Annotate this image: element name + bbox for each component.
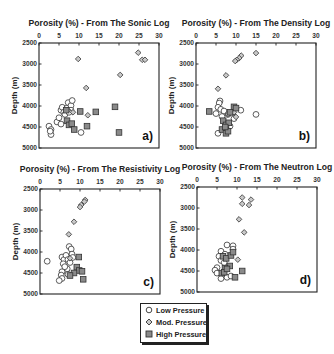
mod-pressure-point: [248, 197, 254, 203]
high-pressure-point: [79, 269, 85, 275]
data-points: [44, 197, 88, 283]
y-tick-label: 3000: [179, 60, 194, 67]
low-pressure-point: [44, 258, 50, 264]
mod-pressure-point: [241, 230, 247, 236]
mod-pressure-point: [71, 219, 77, 225]
legend: Low Pressure Mod. Pressure High Pressure: [140, 303, 207, 343]
mod-pressure-point: [236, 217, 242, 223]
x-tick-label: 20: [273, 176, 281, 183]
y-tick-label: 2500: [180, 183, 195, 190]
high-pressure-point: [232, 275, 238, 281]
y-axis-label: Depth (m): [10, 77, 19, 115]
panel-d-plot: Porosity (%) - From The Neutron LogDepth…: [158, 144, 334, 304]
y-tick-label: 4500: [179, 123, 194, 130]
high-pressure-point: [69, 121, 75, 127]
panel-label: c): [143, 275, 154, 289]
high-pressure-point: [239, 268, 245, 274]
panel-d-neutron: Porosity (%) - From The Neutron LogDepth…: [158, 144, 334, 308]
panel-label: b): [299, 129, 310, 143]
square-marker-icon: [145, 330, 153, 338]
x-tick-label: 15: [252, 32, 260, 39]
high-pressure-point: [76, 254, 82, 260]
x-tick-label: 5: [57, 32, 61, 39]
high-pressure-point: [112, 104, 118, 110]
high-pressure-point: [71, 127, 77, 133]
y-tick-label: 4000: [180, 246, 195, 253]
y-axis-label: Depth (m): [168, 221, 177, 259]
low-pressure-point: [62, 264, 68, 270]
panel-a-sonic: Porosity (%) - From The Sonic LogDepth (…: [0, 0, 167, 164]
y-tick-label: 3500: [179, 81, 194, 88]
y-tick-label: 3000: [180, 204, 195, 211]
x-tick-label: 15: [253, 176, 261, 183]
x-tick-label: 0: [37, 32, 41, 39]
x-tick-label: 5: [215, 176, 219, 183]
legend-item-high: High Pressure: [141, 328, 206, 340]
high-pressure-point: [222, 124, 228, 130]
x-tick-label: 5: [214, 32, 218, 39]
x-tick-label: 20: [116, 178, 124, 185]
high-pressure-point: [227, 110, 233, 116]
data-points: [46, 50, 148, 138]
low-pressure-point: [218, 276, 224, 282]
x-tick-label: 10: [75, 32, 83, 39]
low-pressure-point: [56, 278, 62, 284]
x-tick-label: 30: [312, 32, 320, 39]
low-pressure-point: [56, 115, 62, 121]
x-tick-label: 5: [58, 178, 62, 185]
mod-pressure-point: [117, 72, 123, 78]
x-tick-label: 20: [272, 32, 280, 39]
chart-title: Porosity (%) - From The Neutron Log: [182, 162, 332, 172]
y-tick-label: 5000: [23, 290, 38, 297]
y-tick-label: 3500: [23, 227, 38, 234]
legend-label-mod: Mod. Pressure: [156, 318, 207, 327]
mod-pressure-point: [239, 201, 245, 207]
low-pressure-point: [47, 128, 53, 134]
high-pressure-point: [206, 109, 212, 115]
mod-pressure-point: [223, 73, 229, 79]
high-pressure-point: [93, 109, 99, 115]
x-tick-label: 0: [195, 176, 199, 183]
mod-pressure-point: [85, 112, 91, 118]
high-pressure-point: [80, 277, 86, 283]
x-tick-label: 10: [233, 176, 241, 183]
high-pressure-point: [233, 105, 239, 111]
legend-label-high: High Pressure: [156, 330, 206, 339]
mod-pressure-point: [135, 50, 141, 56]
x-tick-label: 0: [194, 32, 198, 39]
high-pressure-point: [230, 249, 236, 255]
panel-c-resistivity: Porosity (%) - From The Resistivity LogD…: [1, 146, 168, 310]
y-axis-label: Depth (m): [11, 223, 20, 261]
data-points: [206, 50, 259, 136]
mod-pressure-point: [75, 56, 81, 62]
mod-pressure-point: [215, 86, 221, 92]
chart-title: Porosity (%) - From The Resistivity Log: [20, 164, 180, 174]
y-tick-label: 4000: [23, 248, 38, 255]
diamond-marker-icon: [145, 318, 153, 326]
chart-title: Porosity (%) - From The Sonic Log: [29, 18, 170, 28]
high-pressure-point: [67, 273, 73, 279]
x-tick-label: 25: [136, 178, 144, 185]
low-pressure-point: [253, 112, 259, 118]
legend-label-low: Low Pressure: [156, 306, 204, 315]
panel-b-plot: Porosity (%) - From The Density LogDepth…: [157, 0, 334, 160]
y-tick-label: 3500: [22, 81, 37, 88]
y-tick-label: 4500: [22, 123, 37, 130]
mod-pressure-point: [253, 50, 259, 56]
circle-marker-icon: [145, 306, 153, 314]
high-pressure-point: [77, 109, 83, 115]
mod-pressure-point: [66, 232, 72, 238]
x-tick-label: 10: [76, 178, 84, 185]
y-axis-label: Depth (m): [167, 77, 176, 115]
high-pressure-point: [116, 130, 122, 136]
y-tick-label: 4000: [179, 102, 194, 109]
low-pressure-point: [224, 242, 230, 248]
x-tick-label: 15: [95, 32, 103, 39]
y-tick-label: 3000: [23, 206, 38, 213]
mod-pressure-point: [83, 85, 89, 91]
x-tick-label: 30: [313, 176, 321, 183]
high-pressure-point: [224, 266, 230, 272]
y-tick-label: 4500: [180, 267, 195, 274]
x-tick-label: 10: [232, 32, 240, 39]
low-pressure-point: [69, 98, 75, 104]
